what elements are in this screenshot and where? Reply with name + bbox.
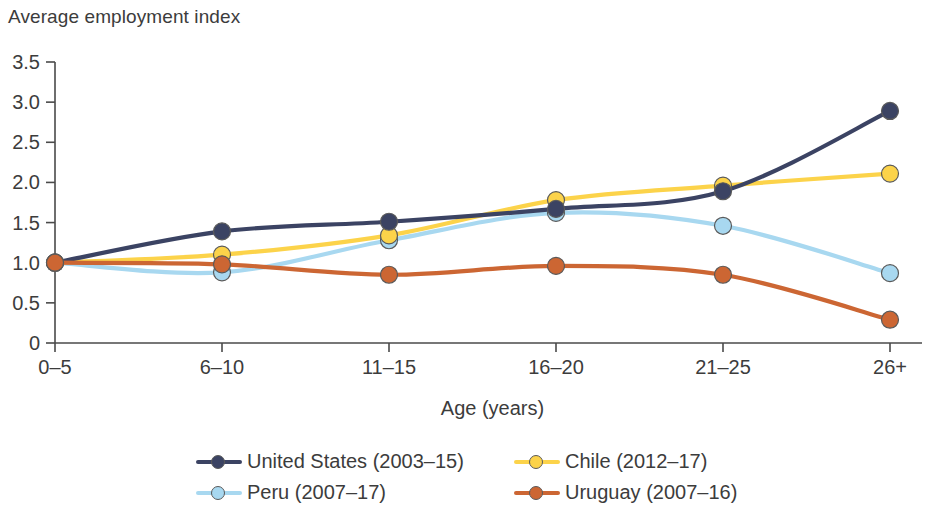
legend-marker-peru — [211, 486, 225, 500]
data-point-marker — [715, 266, 732, 283]
y-tick-label: 2.0 — [12, 171, 40, 193]
y-tick-label: 2.5 — [12, 131, 40, 153]
x-tick-label: 26+ — [873, 356, 907, 378]
legend-marker-uruguay — [529, 486, 543, 500]
series-line — [55, 111, 890, 263]
data-point-marker — [715, 217, 732, 234]
legend-label-chile: Chile (2012–17) — [565, 450, 707, 473]
employment-index-chart: Average employment index 00.51.01.52.02.… — [0, 0, 930, 510]
series-lines — [55, 111, 890, 320]
chart-legend: United States (2003–15) Peru (2007–17) C… — [196, 446, 796, 508]
y-tick-label: 1.5 — [12, 212, 40, 234]
data-point-marker — [882, 102, 899, 119]
y-tick-label: 3.0 — [12, 91, 40, 113]
y-tick-label: 0.5 — [12, 292, 40, 314]
x-tick-label: 11–15 — [362, 356, 416, 378]
y-tick-label: 1.0 — [12, 252, 40, 274]
data-point-marker — [47, 254, 64, 271]
y-tick-label: 0 — [29, 332, 40, 354]
data-point-marker — [882, 265, 899, 282]
data-point-marker — [548, 200, 565, 217]
legend-item-united-states[interactable]: United States (2003–15) — [196, 446, 464, 477]
y-axis-ticks: 00.51.01.52.02.53.03.5 — [12, 51, 55, 354]
legend-swatch-chile — [514, 451, 560, 473]
legend-item-chile[interactable]: Chile (2012–17) — [514, 446, 707, 477]
x-tick-label: 21–25 — [695, 356, 751, 378]
legend-marker-chile — [529, 455, 543, 469]
data-point-marker — [882, 165, 899, 182]
x-axis-title: Age (years) — [441, 397, 544, 419]
data-point-marker — [381, 266, 398, 283]
legend-item-peru[interactable]: Peru (2007–17) — [196, 477, 386, 508]
plot-area: 00.51.01.52.02.53.03.5 0–56–1011–1516–20… — [0, 0, 930, 440]
legend-label-uruguay: Uruguay (2007–16) — [565, 481, 737, 504]
x-axis-ticks: 0–56–1011–1516–2021–2526+ — [38, 343, 907, 378]
x-tick-label: 16–20 — [528, 356, 584, 378]
legend-marker-united-states — [211, 455, 225, 469]
legend-swatch-united-states — [196, 451, 242, 473]
data-point-marker — [715, 183, 732, 200]
legend-swatch-uruguay — [514, 482, 560, 504]
data-point-marker — [214, 256, 231, 273]
y-tick-label: 3.5 — [12, 51, 40, 73]
data-point-marker — [214, 223, 231, 240]
series-line — [55, 174, 890, 263]
legend-label-united-states: United States (2003–15) — [247, 450, 464, 473]
x-tick-label: 6–10 — [200, 356, 245, 378]
data-point-marker — [381, 213, 398, 230]
data-point-marker — [882, 311, 899, 328]
x-tick-label: 0–5 — [38, 356, 71, 378]
legend-swatch-peru — [196, 482, 242, 504]
legend-item-uruguay[interactable]: Uruguay (2007–16) — [514, 477, 737, 508]
data-point-marker — [548, 257, 565, 274]
legend-label-peru: Peru (2007–17) — [247, 481, 386, 504]
